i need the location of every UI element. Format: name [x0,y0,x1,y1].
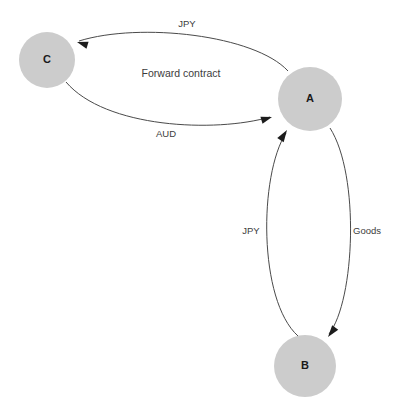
edge-label-aud: AUD [156,128,176,139]
node-c[interactable]: C [19,32,75,88]
diagram-canvas: C A B JPY AUD Forward contract JPY Goods [0,0,401,408]
edge-a-to-c-path [79,32,288,71]
edge-label-forward-contract: Forward contract [142,67,221,79]
edge-b-to-a-path [267,133,298,336]
node-c-label: C [43,53,51,65]
edge-c-to-a-path [66,82,270,125]
edge-label-jpy-bottom: JPY [242,225,260,236]
edge-label-jpy-top: JPY [178,18,196,29]
node-a[interactable]: A [278,67,342,131]
edge-a-to-b-path [329,128,351,334]
node-a-label: A [306,92,314,104]
node-b-label: B [301,359,309,371]
flow-diagram: C A B JPY AUD Forward contract JPY Goods [0,0,401,408]
arrowhead-to-a-from-b [277,128,290,142]
node-group: C A B [19,32,342,397]
arrowhead-to-b-from-a [325,325,338,339]
arrowhead-to-a-from-c [260,114,273,124]
node-b[interactable]: B [274,335,336,397]
edge-label-goods: Goods [353,225,381,236]
edge-label-group: JPY AUD Forward contract JPY Goods [142,18,382,236]
